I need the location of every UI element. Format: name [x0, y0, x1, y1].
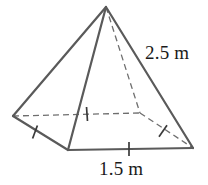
pyramid-figure: 2.5 m 1.5 m [0, 0, 208, 185]
base-edge-left-front-line [13, 116, 68, 150]
base-edge-front-right-line [68, 148, 193, 150]
slant-height-label: 2.5 m [145, 43, 189, 62]
lateral-edge-apex-right-line [106, 7, 193, 148]
lateral-edge-apex-back-line [106, 7, 140, 113]
base-edge-back-right-line [140, 113, 193, 148]
base-edge-label: 1.5 m [99, 159, 143, 178]
tick-base-edge-left-back-mark [87, 107, 88, 121]
solid-edges-group [13, 7, 193, 150]
